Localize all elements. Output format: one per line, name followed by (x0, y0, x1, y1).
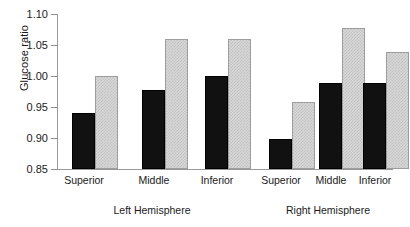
y-tick-mark-0.85 (51, 169, 57, 170)
y-tick-mark-1.10 (51, 14, 57, 15)
bar-left-superior-light (95, 76, 118, 169)
bar-left-superior-dark (72, 113, 95, 169)
group-label-left-hemisphere: Left Hemisphere (72, 204, 232, 216)
bar-right-middle-dark (319, 83, 342, 169)
group-label-right-hemisphere: Right Hemisphere (248, 204, 408, 216)
x-axis-line (57, 169, 393, 170)
x-tick-label-left-middle: Middle (119, 174, 189, 186)
x-tick-label-left-superior: Superior (49, 174, 119, 186)
y-tick-label-0.85: 0.85 (27, 163, 48, 175)
y-tick-label-0.90: 0.90 (27, 132, 48, 144)
y-tick-label-0.95: 0.95 (27, 101, 48, 113)
y-tick-mark-1.05 (51, 45, 57, 46)
y-tick-label-1.10: 1.10 (27, 8, 48, 20)
bar-left-middle-dark (142, 90, 165, 169)
y-tick-mark-0.90 (51, 138, 57, 139)
y-tick-label-1.00: 1.00 (27, 70, 48, 82)
y-tick-mark-1.00 (51, 76, 57, 77)
y-tick-label-1.05: 1.05 (27, 39, 48, 51)
bar-right-middle-light (342, 28, 365, 169)
x-tick-label-left-inferior: Inferior (182, 174, 252, 186)
bar-right-inferior-light (386, 52, 409, 169)
bar-left-inferior-dark (205, 76, 228, 169)
plot-area: 1.10 1.05 1.00 0.95 0.90 0.85 Superior M… (57, 14, 392, 169)
y-tick-mark-0.95 (51, 107, 57, 108)
x-tick-label-right-inferior: Inferior (340, 174, 410, 186)
bar-right-superior-light (292, 102, 315, 169)
bar-right-inferior-dark (363, 83, 386, 169)
y-axis-line (57, 14, 58, 170)
bar-left-inferior-light (228, 39, 251, 169)
bar-right-superior-dark (269, 139, 292, 169)
bar-left-middle-light (165, 39, 188, 169)
